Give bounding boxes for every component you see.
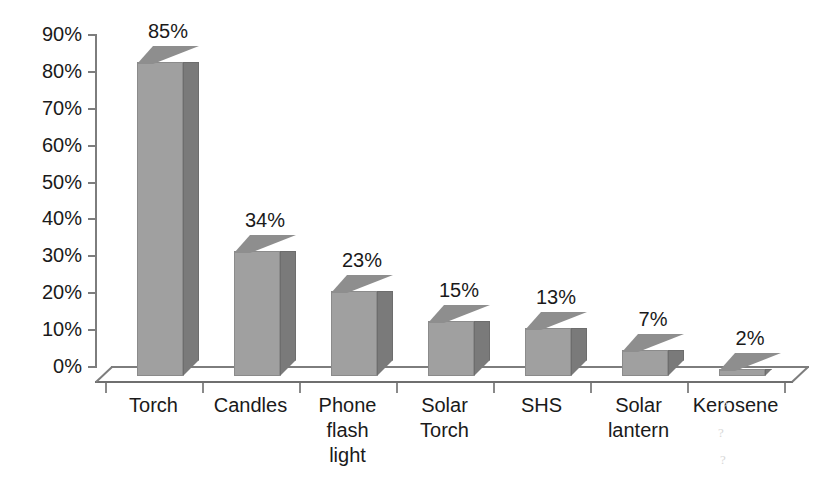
- bar-column: [137, 46, 199, 376]
- y-axis-tick-label: 90%: [12, 24, 82, 44]
- y-axis-tick-label: 50%: [12, 172, 82, 192]
- bar-value-label: 2%: [707, 327, 793, 349]
- bar-side-face: [474, 321, 490, 376]
- x-axis-tick: [299, 383, 301, 393]
- y-axis-tick: [88, 71, 97, 73]
- scan-artifact: ?: [722, 398, 728, 414]
- y-axis-tick-label-text: 0%: [20, 356, 82, 376]
- x-axis-category-label: Candles: [202, 393, 299, 418]
- y-axis-tick-label-text: 80%: [20, 61, 82, 81]
- y-axis-tick: [88, 145, 97, 147]
- y-axis-tick-label-text: 20%: [20, 282, 82, 302]
- y-axis-tick-label: 30%: [12, 245, 82, 265]
- bar-front-face: [234, 251, 280, 376]
- x-axis-category-label-line: Solar: [590, 393, 687, 418]
- x-axis-tick: [202, 383, 204, 393]
- scan-artifact: ?: [718, 425, 724, 441]
- x-axis-category-label: SHS: [493, 393, 590, 418]
- bar-value-label: 15%: [416, 279, 502, 301]
- bar-side-face: [668, 350, 684, 376]
- bar-front-face: [622, 350, 668, 376]
- x-axis-category-label-line: Solar: [396, 393, 493, 418]
- x-axis-category-label: Solarlantern: [590, 393, 687, 443]
- scan-artifact: ?: [720, 452, 726, 468]
- y-axis-tick-label: 60%: [12, 135, 82, 155]
- y-axis-tick: [88, 329, 97, 331]
- x-axis-category-label-line: light: [299, 443, 396, 468]
- y-axis-tick-label-text: 60%: [20, 135, 82, 155]
- bar-side-face: [571, 328, 587, 376]
- y-axis-tick-label: 80%: [12, 61, 82, 81]
- bar-value-label: 23%: [319, 249, 405, 271]
- bar-value-label: 85%: [125, 20, 211, 42]
- x-axis-category-label-line: SHS: [493, 393, 590, 418]
- y-axis-tick-label: 40%: [12, 208, 82, 228]
- bar-value-label: 7%: [610, 308, 696, 330]
- x-axis-category-label: Torch: [105, 393, 202, 418]
- bar-front-face: [525, 328, 571, 376]
- bar-value-label: 34%: [222, 209, 308, 231]
- y-axis-tick-label-text: 50%: [20, 172, 82, 192]
- bar-front-face: [331, 291, 377, 376]
- x-axis-category-label-line: Kerosene: [687, 393, 784, 418]
- x-axis-category-label: SolarTorch: [396, 393, 493, 443]
- x-axis-category-label-line: lantern: [590, 418, 687, 443]
- y-axis-tick-label-text: 90%: [20, 24, 82, 44]
- bar-column: [234, 235, 296, 376]
- y-axis-tick-label: 0%: [12, 356, 82, 376]
- y-axis-tick-label-text: 30%: [20, 245, 82, 265]
- floor-left-edge: [95, 366, 113, 383]
- bar-chart: 0%10%20%30%40%50%60%70%80%90% 85%34%23%1…: [0, 0, 834, 503]
- x-axis-category-label-line: flash: [299, 418, 396, 443]
- x-axis-category-label-line: Candles: [202, 393, 299, 418]
- bar-column: [622, 334, 684, 376]
- y-axis-tick-label: 10%: [12, 319, 82, 339]
- x-axis-category-label: Phoneflashlight: [299, 393, 396, 468]
- x-axis-tick: [396, 383, 398, 393]
- y-axis-line: [95, 35, 97, 368]
- x-axis-tick: [105, 383, 107, 393]
- bar-side-face: [765, 369, 781, 376]
- y-axis-tick: [88, 255, 97, 257]
- bar-front-face: [137, 62, 183, 376]
- bar-column: [525, 312, 587, 376]
- x-axis-category-label-line: Torch: [396, 418, 493, 443]
- bar-side-face: [280, 251, 296, 376]
- x-axis-tick: [784, 383, 786, 393]
- x-axis-category-label-line: Phone: [299, 393, 396, 418]
- y-axis-tick-label-text: 10%: [20, 319, 82, 339]
- y-axis-tick-label: 20%: [12, 282, 82, 302]
- y-axis-tick-label: 70%: [12, 98, 82, 118]
- floor-right-edge: [791, 366, 809, 383]
- bar-column: [331, 275, 393, 376]
- x-axis-tick: [687, 383, 689, 393]
- y-axis-tick: [88, 34, 97, 36]
- x-axis-tick: [493, 383, 495, 393]
- x-axis-tick: [590, 383, 592, 393]
- y-axis-tick: [88, 292, 97, 294]
- y-axis-tick-label-text: 40%: [20, 208, 82, 228]
- y-axis-tick-label-text: 70%: [20, 98, 82, 118]
- bar-side-face: [183, 62, 199, 376]
- bar-front-face: [428, 321, 474, 376]
- bar-value-label: 13%: [513, 286, 599, 308]
- y-axis-tick: [88, 108, 97, 110]
- bar-side-face: [377, 291, 393, 376]
- y-axis-tick: [88, 218, 97, 220]
- x-axis-category-label-line: Torch: [105, 393, 202, 418]
- y-axis-tick: [88, 182, 97, 184]
- bar-column: [428, 305, 490, 376]
- x-axis-category-label: Kerosene: [687, 393, 784, 418]
- bar-column: [719, 353, 781, 376]
